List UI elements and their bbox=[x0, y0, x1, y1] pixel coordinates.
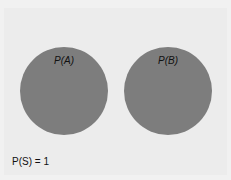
event-a-circle: P(A) bbox=[20, 47, 108, 135]
event-b-circle: P(B) bbox=[124, 47, 212, 135]
sample-space-label: P(S) = 1 bbox=[12, 156, 49, 167]
event-b-label: P(B) bbox=[124, 55, 212, 66]
event-a-label: P(A) bbox=[20, 55, 108, 66]
